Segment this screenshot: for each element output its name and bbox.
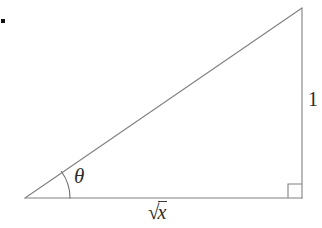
triangle-drawing — [0, 0, 322, 228]
opposite-side-label: 1 — [308, 89, 318, 109]
angle-label-theta: θ — [74, 166, 84, 187]
radicand-variable: x — [158, 201, 168, 222]
right-angle-marker — [288, 184, 302, 198]
hypotenuse-line — [25, 8, 302, 198]
angle-arc — [61, 172, 70, 199]
figure-canvas: θ 1 √x — [0, 0, 322, 228]
adjacent-side-label: √x — [148, 200, 167, 223]
